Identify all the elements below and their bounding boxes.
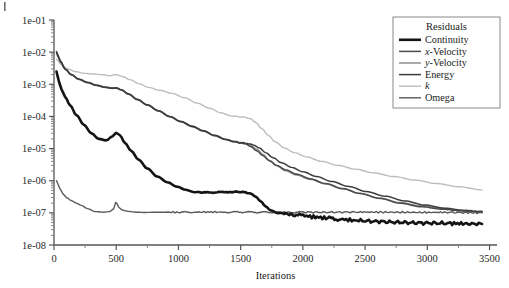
y-tick-label: 1e-05 bbox=[22, 143, 46, 154]
x-tick-label: 500 bbox=[108, 253, 124, 264]
legend-label: x-Velocity bbox=[424, 46, 468, 57]
legend-label-rest: -Velocity bbox=[430, 57, 468, 68]
y-tick-label: 1e-07 bbox=[22, 207, 46, 218]
legend-label: Continuity bbox=[425, 34, 469, 45]
legend-label-italic: k bbox=[425, 80, 430, 91]
x-tick-label: 0 bbox=[51, 253, 56, 264]
y-tick-label: 1e-08 bbox=[22, 240, 46, 251]
x-tick-label: 3500 bbox=[479, 253, 500, 264]
x-tick-label: 1500 bbox=[230, 253, 251, 264]
legend-label: Omega bbox=[425, 92, 455, 103]
y-tick-label: 1e-03 bbox=[22, 79, 46, 90]
x-axis-title: Iterations bbox=[256, 270, 296, 281]
y-tick-label: 1e-06 bbox=[22, 175, 46, 186]
x-tick-label: 2500 bbox=[355, 253, 376, 264]
y-tick-label: 1e-04 bbox=[22, 111, 47, 122]
residuals-plot: 1e-011e-021e-031e-041e-051e-061e-071e-08… bbox=[0, 0, 509, 288]
legend-label: k bbox=[425, 80, 430, 91]
legend-label: y-Velocity bbox=[424, 57, 468, 68]
legend-label: Energy bbox=[425, 69, 455, 80]
y-tick-label: 1e-01 bbox=[22, 15, 46, 26]
figure-corner-mark bbox=[4, 2, 6, 11]
legend-label-rest: -Velocity bbox=[430, 46, 468, 57]
legend-title: Residuals bbox=[426, 21, 467, 32]
y-tick-label: 1e-02 bbox=[22, 47, 46, 58]
figure-container: 1e-011e-021e-031e-041e-051e-061e-071e-08… bbox=[0, 0, 509, 288]
x-tick-label: 2000 bbox=[292, 253, 313, 264]
x-tick-label: 1000 bbox=[168, 253, 189, 264]
x-tick-label: 3000 bbox=[417, 253, 438, 264]
